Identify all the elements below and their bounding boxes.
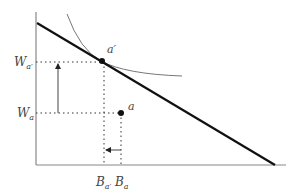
- x-label-b-a: Ba: [114, 175, 129, 191]
- point-a: [118, 110, 124, 116]
- point-a-prime-label: a′: [107, 43, 117, 56]
- y-label-w-a: Wa: [17, 106, 34, 122]
- indifference-curve: [67, 14, 182, 76]
- point-a-label: a: [128, 100, 135, 113]
- x-label-b-a-prime: Ba′: [95, 175, 112, 191]
- y-label-w-a-prime: Wa′: [14, 55, 33, 71]
- point-a-prime: [99, 58, 105, 64]
- budget-line: [37, 23, 275, 165]
- diagram-canvas: a′ a Wa′ Wa Ba′ Ba: [0, 0, 301, 195]
